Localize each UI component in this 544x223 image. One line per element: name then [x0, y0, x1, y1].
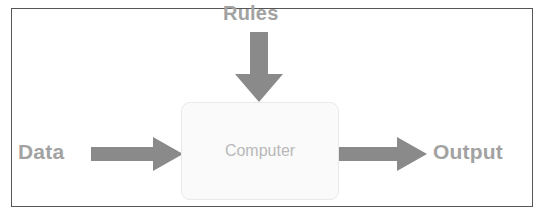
arrow-rules-to-computer-icon: [235, 32, 283, 102]
arrow-data-to-computer-icon: [91, 137, 183, 171]
diagram-canvas: Rules Data Computer Output: [0, 0, 544, 223]
process-box-computer: Computer: [181, 102, 339, 200]
label-rules: Rules: [223, 3, 278, 23]
label-data: Data: [18, 141, 64, 162]
process-box-label: Computer: [182, 143, 338, 159]
diagram-frame: Rules Data Computer Output: [11, 8, 533, 207]
label-output: Output: [433, 141, 503, 162]
arrow-computer-to-output-icon: [339, 137, 427, 171]
